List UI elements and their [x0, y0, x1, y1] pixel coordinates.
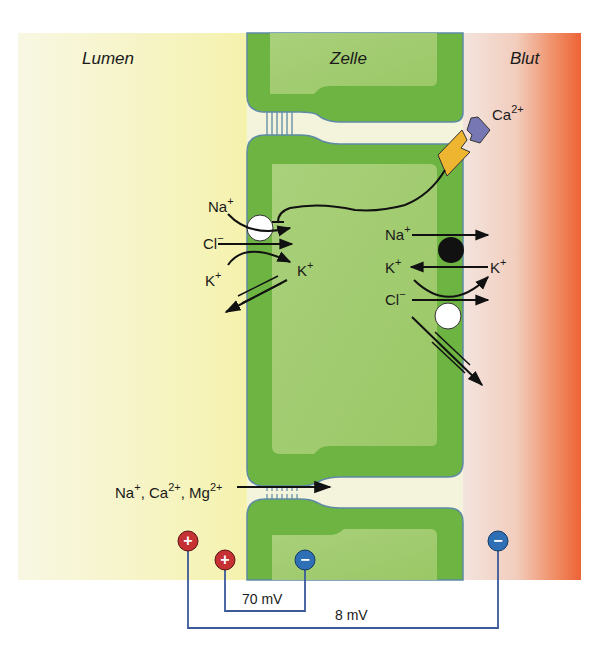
svg-text:+: +: [183, 532, 192, 549]
electrode-inner-negative: −: [295, 550, 315, 570]
blood-region: [463, 33, 581, 580]
membrane-voltage-label: 70 mV: [242, 591, 283, 607]
cell-label: Zelle: [329, 49, 367, 68]
svg-text:+: +: [220, 551, 229, 568]
electrode-outer-positive: +: [178, 531, 198, 551]
electrode-inner-positive: +: [215, 550, 235, 570]
lumen-label: Lumen: [82, 49, 134, 68]
blood-label: Blut: [510, 49, 541, 68]
bottom-cell: [247, 499, 463, 580]
svg-text:−: −: [300, 551, 309, 568]
top-cell: [247, 33, 463, 122]
electrode-outer-negative: −: [488, 531, 508, 551]
svg-text:−: −: [493, 532, 502, 549]
transepithelial-voltage-label: 8 mV: [335, 607, 368, 623]
transport-diagram: Lumen Zelle Blut Ca2+ Na+ Cl− K+ K+: [0, 0, 604, 650]
